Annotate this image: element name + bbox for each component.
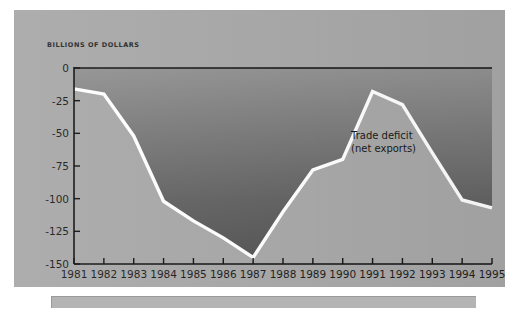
chart-svg <box>74 68 492 264</box>
figure-container: BILLIONS OF DOLLARS 0 -25 -50 -75 -100 -… <box>0 0 520 312</box>
y-axis-tick-labels: 0 -25 -50 -75 -100 -125 -150 <box>14 68 69 264</box>
x-axis-ticks <box>74 258 492 264</box>
y-tick-label: -125 <box>45 225 69 237</box>
y-tick-label: -50 <box>52 127 69 139</box>
x-axis-tick-labels: 1981198219831984198519861987198819891990… <box>74 268 492 286</box>
x-tick-label: 1982 <box>90 268 117 280</box>
x-tick-label: 1990 <box>329 268 356 280</box>
chart-panel: BILLIONS OF DOLLARS 0 -25 -50 -75 -100 -… <box>14 10 505 287</box>
x-tick-label: 1985 <box>180 268 207 280</box>
y-axis-ticks <box>74 68 80 264</box>
x-tick-label: 1987 <box>240 268 267 280</box>
caption-bar <box>51 296 476 308</box>
x-tick-label: 1995 <box>479 268 506 280</box>
y-tick-label: 0 <box>62 62 69 74</box>
x-tick-label: 1993 <box>419 268 446 280</box>
x-tick-label: 1989 <box>299 268 326 280</box>
y-tick-label: -75 <box>52 160 69 172</box>
plot-area <box>74 68 492 264</box>
x-tick-label: 1984 <box>150 268 177 280</box>
x-tick-label: 1992 <box>389 268 416 280</box>
x-tick-label: 1991 <box>359 268 386 280</box>
x-tick-label: 1986 <box>210 268 237 280</box>
x-tick-label: 1988 <box>270 268 297 280</box>
series-annotation-label: Trade deficit (net exports) <box>351 129 416 155</box>
annotation-line-2: (net exports) <box>351 142 416 155</box>
y-axis-title: BILLIONS OF DOLLARS <box>47 41 140 49</box>
y-tick-label: -25 <box>52 95 69 107</box>
annotation-line-1: Trade deficit <box>351 129 416 142</box>
x-tick-label: 1983 <box>120 268 147 280</box>
x-tick-label: 1994 <box>449 268 476 280</box>
y-tick-label: -100 <box>45 193 69 205</box>
x-tick-label: 1981 <box>61 268 88 280</box>
area-fill <box>74 68 492 257</box>
